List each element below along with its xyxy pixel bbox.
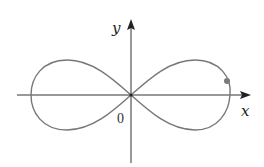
y-axis-label: y [111, 19, 121, 37]
highlight-point [224, 78, 230, 84]
x-axis-label: x [241, 102, 250, 120]
origin-label: 0 [117, 111, 124, 126]
curve-diagram: y x 0 [0, 0, 264, 167]
origin-point [129, 93, 132, 96]
